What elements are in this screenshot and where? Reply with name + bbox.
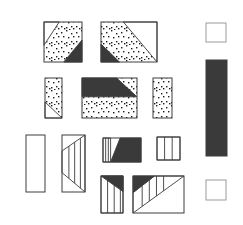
quilt-pieces-diagram	[0, 0, 243, 225]
patch-ground	[206, 180, 226, 200]
patch-ground	[153, 78, 172, 118]
patch-ground	[206, 23, 226, 42]
quilt-diagram-canvas	[0, 0, 243, 225]
patch-square-white-bottom-right	[206, 180, 226, 200]
patch-rect-dotted-top-right	[101, 22, 157, 62]
patch-rect-white-row3-left	[26, 135, 45, 192]
patch-square-white-top-right	[206, 23, 226, 42]
patch-square-pieced-bottom-right	[133, 176, 184, 213]
patch-rect-striped-dark-corner-bottom	[101, 176, 123, 213]
patch-rect-striped-trapezoid	[62, 135, 85, 192]
patch-ground	[206, 60, 227, 156]
patch-rect-dotted-dark-band-center	[82, 78, 137, 118]
patch-ground	[26, 135, 45, 192]
patch-rect-striped-white-dark-center	[103, 138, 141, 162]
patch-bar-dark-right	[206, 60, 227, 156]
patch-rect-dotted-row2-right	[153, 78, 172, 118]
striped-region	[157, 137, 180, 160]
patch-square-striped-row3-right	[157, 137, 180, 160]
patch-square-dotted-top-left	[44, 22, 82, 62]
striped-region	[103, 138, 111, 162]
patch-rect-dotted-row2-left	[45, 78, 62, 118]
